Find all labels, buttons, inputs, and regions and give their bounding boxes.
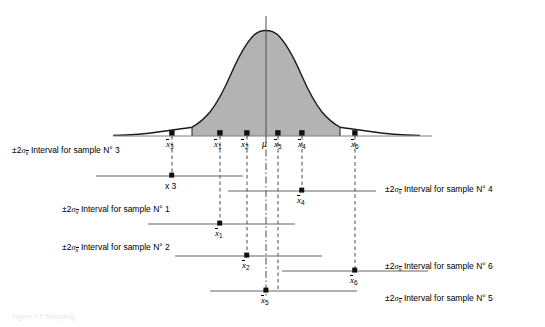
interval-label-sample-3-prefix: ±2 — [12, 145, 21, 155]
interval-marker-sample-1 — [217, 221, 222, 226]
axis-label-x3: x3 — [166, 140, 174, 150]
interval-marker-sample-6 — [352, 268, 357, 273]
marker-x1 — [217, 130, 222, 135]
interval-mean-label-sample-2: x2 — [242, 261, 250, 271]
marker-x3 — [169, 130, 174, 135]
dashed-guide-lines — [172, 136, 355, 291]
interval-label-sample-2-text: Interval for sample N° 2 — [81, 242, 170, 252]
interval-label-sample-1-text: Interval for sample N° 1 — [81, 204, 170, 214]
figure-caption: Figure 7.5 Sampling — [12, 313, 75, 320]
marker-x2 — [244, 130, 249, 135]
interval-label-sample-3: ±2σx Interval for sample N° 3 — [12, 146, 120, 157]
axis-label-x4: x4 — [298, 140, 306, 150]
interval-marker-sample-3 — [169, 173, 174, 178]
interval-label-sample-2: ±2σx Interval for sample N° 2 — [62, 243, 170, 254]
marker-x4 — [299, 130, 304, 135]
interval-label-sample-1: ±2σx Interval for sample N° 1 — [62, 205, 170, 216]
axis-label-x6: x6 — [351, 140, 359, 150]
marker-x5 — [275, 130, 280, 135]
interval-point-label-sample-3: x 3 — [165, 182, 176, 191]
axis-label-x2: x2 — [241, 140, 249, 150]
interval-mean-label-sample-1: x1 — [215, 229, 223, 239]
interval-label-sample-3-text: Interval for sample N° 3 — [31, 145, 120, 155]
axis-label-mu: μ — [262, 140, 267, 150]
interval-marker-sample-4 — [299, 188, 304, 193]
interval-label-sample-5: ±2σx Interval for sample N° 5 — [385, 294, 493, 305]
interval-mean-label-sample-5: x5 — [261, 296, 269, 306]
interval-marker-sample-5 — [263, 288, 268, 293]
figure-canvas: x3 x1 x2 μ x5 x4 x6 ±2σx Interval for sa… — [0, 0, 545, 327]
interval-label-sample-4-text: Interval for sample N° 4 — [404, 184, 493, 194]
interval-label-sample-5-text: Interval for sample N° 5 — [404, 293, 493, 303]
marker-x6 — [352, 130, 357, 135]
diagram-graphics — [0, 0, 545, 327]
interval-mean-label-sample-6: x6 — [350, 276, 358, 286]
interval-lines — [96, 176, 428, 291]
interval-label-sample-4: ±2σx Interval for sample N° 4 — [385, 185, 493, 196]
interval-mean-label-sample-4: x4 — [297, 196, 305, 206]
curve-group — [113, 16, 420, 136]
interval-marker-sample-2 — [244, 253, 249, 258]
interval-label-sample-6-text: Interval for sample N° 6 — [404, 261, 493, 271]
interval-label-sample-6: ±2σx Interval for sample N° 6 — [385, 262, 493, 273]
axis-label-x1: x1 — [214, 140, 222, 150]
axis-label-x5: x5 — [274, 140, 282, 150]
